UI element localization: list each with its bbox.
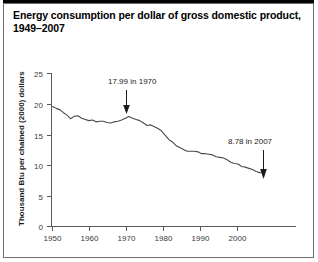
chart-svg: Thousand Btu per chained (2000) dollars …	[0, 0, 318, 262]
x-tick-label-2000: 2000	[229, 234, 247, 243]
y-axis-ticks	[47, 74, 52, 227]
x-tick-label-1960: 1960	[81, 234, 99, 243]
y-tick-label-20: 20	[34, 101, 43, 110]
x-tick-label-1970: 1970	[118, 234, 136, 243]
y-axis-label: Thousand Btu per chained (2000) dollars	[17, 71, 26, 226]
x-axis-tick-labels: 1950 1960 1970 1980 1990 2000	[44, 234, 247, 243]
plot-area: Thousand Btu per chained (2000) dollars …	[0, 0, 318, 262]
chart-figure: Energy consumption per dollar of gross d…	[0, 0, 318, 262]
y-tick-label-25: 25	[34, 70, 43, 79]
x-axis-ticks	[53, 227, 238, 232]
y-axis-tick-labels: 25 20 15 10 5 0	[34, 70, 43, 232]
x-tick-label-1950: 1950	[44, 234, 62, 243]
y-tick-label-10: 10	[34, 162, 43, 171]
annotation-arrow-head-1970	[123, 105, 130, 114]
annotation-label-1970: 17.99 in 1970	[108, 77, 157, 86]
annotation-arrow-head-2007	[260, 169, 267, 179]
x-tick-label-1980: 1980	[155, 234, 173, 243]
y-tick-label-5: 5	[39, 193, 44, 202]
annotation-label-2007: 8.78 in 2007	[228, 137, 273, 146]
x-tick-label-1990: 1990	[192, 234, 210, 243]
annotation-1970: 17.99 in 1970	[108, 77, 157, 114]
y-tick-label-0: 0	[39, 223, 44, 232]
y-tick-label-15: 15	[34, 132, 43, 141]
annotation-2007: 8.78 in 2007	[228, 137, 273, 179]
